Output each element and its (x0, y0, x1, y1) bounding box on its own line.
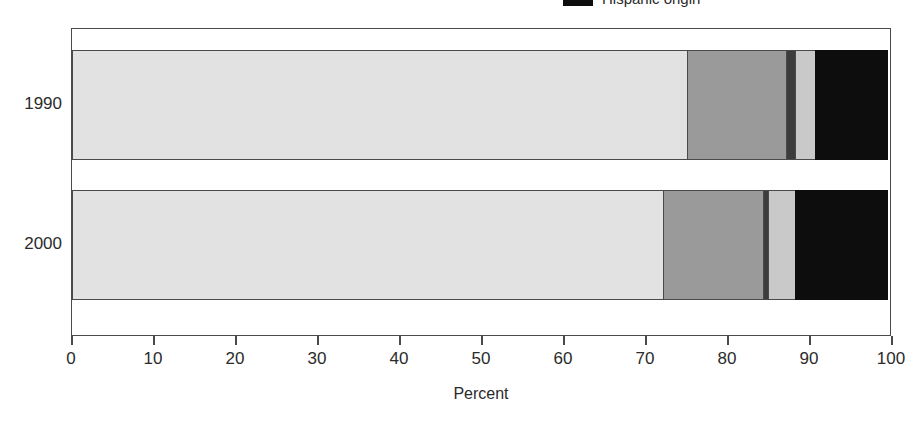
x-axis-ticklabel-20: 20 (226, 349, 245, 369)
x-axis-ticklabel-90: 90 (800, 349, 819, 369)
x-axis-tickmark-20 (235, 336, 237, 345)
bar-row-2000 (72, 190, 892, 300)
x-axis-ticklabel-30: 30 (308, 349, 327, 369)
plot-area (71, 28, 891, 336)
bar-row-1990 (72, 50, 892, 160)
bar-segment-black-2000 (663, 190, 764, 300)
x-axis-ticklabel-0: 0 (66, 349, 75, 369)
bar-segment-black-1990 (687, 50, 787, 160)
x-axis-tickmark-30 (317, 336, 319, 345)
x-axis-tickmark-60 (563, 336, 565, 345)
legend-swatch-hispanic-icon (563, 0, 593, 6)
bar-segment-white-2000 (72, 190, 664, 300)
x-axis-ticklabel-60: 60 (554, 349, 573, 369)
x-axis-ticklabel-80: 80 (718, 349, 737, 369)
x-axis-title: Percent (71, 385, 891, 403)
bar-segment-hispanic-1990 (815, 50, 888, 160)
x-axis-tickmark-70 (645, 336, 647, 345)
y-axis-label-2000: 2000 (2, 234, 62, 254)
y-axis-labels: 1990 2000 (0, 28, 62, 336)
x-axis-tickmark-10 (153, 336, 155, 345)
chart-legend: Hispanic origin (563, 0, 700, 6)
chart-figure: Hispanic origin 1990 2000 01020304050607… (0, 0, 917, 423)
x-axis-tickmark-40 (399, 336, 401, 345)
x-axis-ticklabel-100: 100 (877, 349, 905, 369)
bar-segment-api-2000 (768, 190, 797, 300)
x-axis-tickmark-80 (727, 336, 729, 345)
x-axis-tickmark-90 (809, 336, 811, 345)
x-axis-tickmark-0 (71, 336, 73, 345)
bar-segment-api-1990 (795, 50, 816, 160)
y-axis-label-1990: 1990 (2, 94, 62, 114)
x-axis-ticklabel-40: 40 (390, 349, 409, 369)
bar-segment-white-1990 (72, 50, 688, 160)
x-axis-tickmark-100 (891, 336, 893, 345)
legend-label-hispanic: Hispanic origin (602, 0, 700, 6)
bar-segment-hispanic-2000 (795, 190, 888, 300)
x-axis-ticklabel-70: 70 (636, 349, 655, 369)
x-axis-ticklabel-50: 50 (472, 349, 491, 369)
x-axis-ticklabel-10: 10 (144, 349, 163, 369)
x-axis-tickmark-50 (481, 336, 483, 345)
